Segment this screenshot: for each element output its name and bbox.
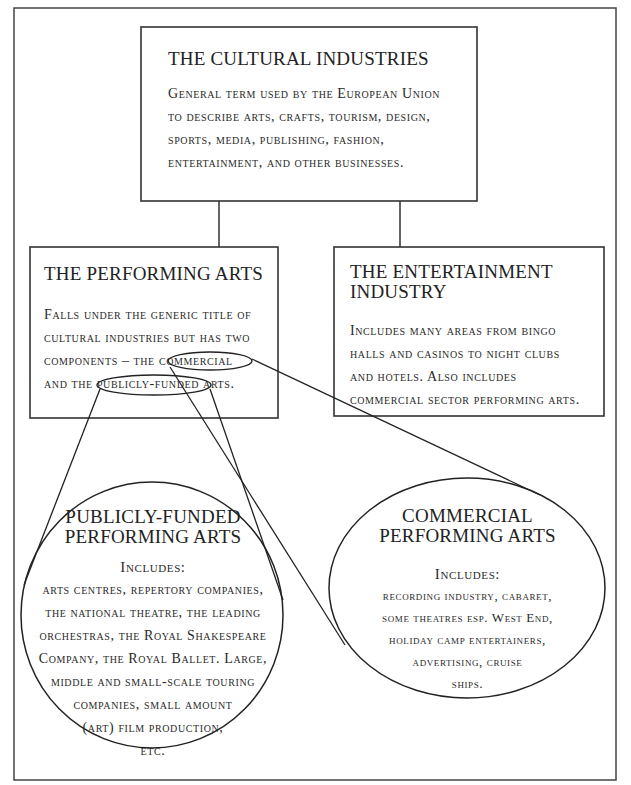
performing-arts-line: Falls under the generic title of: [44, 303, 274, 326]
commercial-content: COMMERCIAL PERFORMING ARTS Includes: rec…: [340, 506, 595, 695]
publicly-funded-line: the national theatre, the leading: [22, 601, 284, 624]
publicly-funded-title-line1: PUBLICLY-FUNDED: [22, 507, 284, 527]
publicly-funded-includes-label: Includes:: [22, 557, 284, 578]
cultural-industries-line: sports, media, publishing, fashion,: [168, 128, 468, 151]
cultural-industries-title: THE CULTURAL INDUSTRIES: [168, 49, 468, 69]
entertainment-industry-title-line2: INDUSTRY: [350, 282, 600, 302]
publicly-funded-highlight: publicly-funded: [97, 376, 199, 391]
publicly-funded-line: Company, the Royal Ballet. Large,: [22, 647, 284, 670]
cultural-industries-line: to describe arts, crafts, tourism, desig…: [168, 105, 468, 128]
commercial-title-line1: COMMERCIAL: [340, 506, 595, 526]
entertainment-industry-content: THE ENTERTAINMENT INDUSTRY Includes many…: [350, 262, 600, 411]
publicly-funded-content: PUBLICLY-FUNDED PERFORMING ARTS Includes…: [22, 507, 284, 762]
publicly-funded-line: middle and small-scale touring: [22, 670, 284, 693]
performing-arts-line3-prefix: components – the: [44, 353, 159, 368]
performing-arts-line: cultural industries but has two: [44, 326, 274, 349]
entertainment-industry-line: Includes many areas from bingo: [350, 319, 600, 342]
publicly-funded-line: etc.: [22, 739, 284, 762]
commercial-line: holiday camp entertainers,: [340, 629, 595, 651]
entertainment-industry-title-line1: THE ENTERTAINMENT: [350, 262, 600, 282]
performing-arts-line: and the publicly-funded arts.: [44, 372, 274, 395]
publicly-funded-title-line2: PERFORMING ARTS: [22, 527, 284, 547]
performing-arts-title: THE PERFORMING ARTS: [44, 264, 274, 284]
publicly-funded-line: (art) film production,: [22, 716, 284, 739]
cultural-industries-content: THE CULTURAL INDUSTRIES General term use…: [168, 49, 468, 174]
entertainment-industry-line: and hotels. Also includes: [350, 365, 600, 388]
commercial-highlight: commercial: [159, 353, 233, 368]
commercial-line: some theatres esp. West End,: [340, 607, 595, 629]
publicly-funded-line: arts centres, repertory companies,: [22, 578, 284, 601]
performing-arts-line4-suffix: arts.: [199, 376, 235, 391]
entertainment-industry-line: halls and casinos to night clubs: [350, 342, 600, 365]
performing-arts-content: THE PERFORMING ARTS Falls under the gene…: [44, 264, 274, 395]
performing-arts-line: components – the commercial: [44, 349, 274, 372]
cultural-industries-line: General term used by the European Union: [168, 82, 468, 105]
publicly-funded-line: orchestras, the Royal Shakespeare: [22, 624, 284, 647]
entertainment-industry-line: commercial sector performing arts.: [350, 388, 600, 411]
commercial-line: advertising, cruise: [340, 651, 595, 673]
commercial-includes-label: Includes:: [340, 564, 595, 585]
commercial-line: recording industry, cabaret,: [340, 585, 595, 607]
commercial-title-line2: PERFORMING ARTS: [340, 526, 595, 546]
commercial-line: ships.: [340, 673, 595, 695]
cultural-industries-line: entertainment, and other businesses.: [168, 151, 468, 174]
publicly-funded-line: companies, small amount: [22, 693, 284, 716]
performing-arts-line4-prefix: and the: [44, 376, 97, 391]
